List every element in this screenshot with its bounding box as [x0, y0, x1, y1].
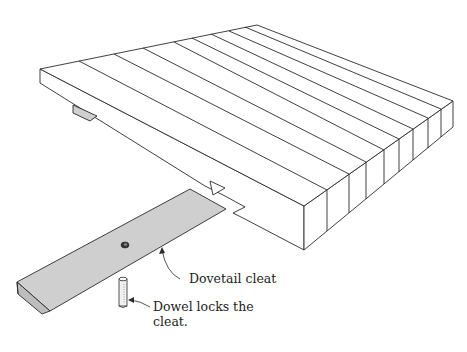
dowel [119, 277, 127, 307]
callout-dowel-line1: Dowel locks the [153, 300, 254, 314]
dowel-hole-highlight [124, 243, 128, 245]
arrowhead-icon [128, 297, 134, 303]
arrowhead-icon [159, 247, 165, 254]
callout-dovetail-cleat: Dovetail cleat [189, 272, 276, 286]
callout-dowel-line2: cleat. [153, 315, 188, 329]
leader-dovetail-cleat [162, 250, 180, 279]
